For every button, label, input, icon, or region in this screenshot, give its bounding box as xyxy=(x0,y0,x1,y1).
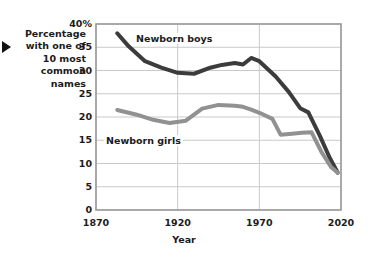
x-axis-tick-label: 1970 xyxy=(246,217,272,228)
x-axis-tick-label: 1870 xyxy=(83,217,109,228)
x-axis-tick-label: 1920 xyxy=(164,217,190,228)
series-label-newborn-girls: Newborn girls xyxy=(104,135,183,146)
x-axis-title: Year xyxy=(0,234,368,245)
x-axis-tick-label: 2020 xyxy=(328,217,354,228)
series-label-newborn-boys: Newborn boys xyxy=(134,33,214,44)
chart-figure: Percentage with one of 10 most common na… xyxy=(0,0,368,265)
